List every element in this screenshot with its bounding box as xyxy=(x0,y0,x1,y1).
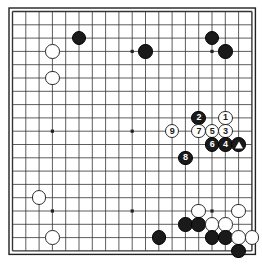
stone-black[interactable] xyxy=(138,44,153,59)
stone-white[interactable] xyxy=(45,71,60,86)
stone-black[interactable] xyxy=(218,44,233,59)
stone-white[interactable] xyxy=(231,204,246,219)
stone-black[interactable] xyxy=(152,230,167,245)
stone-move-3[interactable]: 3 xyxy=(218,124,233,139)
move-number-label: 4 xyxy=(223,140,228,149)
go-board-diagram: 219753648 xyxy=(0,0,262,276)
star-point xyxy=(210,50,213,53)
stone-move-1[interactable]: 1 xyxy=(218,111,233,126)
move-number-label: 8 xyxy=(183,153,188,162)
stone-marked-triangle[interactable] xyxy=(231,137,246,152)
star-point xyxy=(131,209,134,212)
star-point xyxy=(51,209,54,212)
star-point xyxy=(131,130,134,133)
star-point xyxy=(131,50,134,53)
stone-white[interactable] xyxy=(45,44,60,59)
stone-black[interactable] xyxy=(231,244,246,259)
move-number-label: 3 xyxy=(223,126,228,135)
stone-white[interactable] xyxy=(231,230,246,245)
stone-white[interactable] xyxy=(45,230,60,245)
move-number-label: 2 xyxy=(196,113,201,122)
move-number-label: 5 xyxy=(210,126,215,135)
move-number-label: 9 xyxy=(170,126,175,135)
stone-white[interactable] xyxy=(245,230,260,245)
star-point xyxy=(51,130,54,133)
star-point xyxy=(210,209,213,212)
move-number-label: 1 xyxy=(223,113,228,122)
stone-black[interactable] xyxy=(191,217,206,232)
move-number-label: 6 xyxy=(210,140,215,149)
stone-move-2[interactable]: 2 xyxy=(191,111,206,126)
triangle-marker-icon xyxy=(235,142,243,149)
move-number-label: 7 xyxy=(196,126,201,135)
stone-move-8[interactable]: 8 xyxy=(178,151,193,166)
